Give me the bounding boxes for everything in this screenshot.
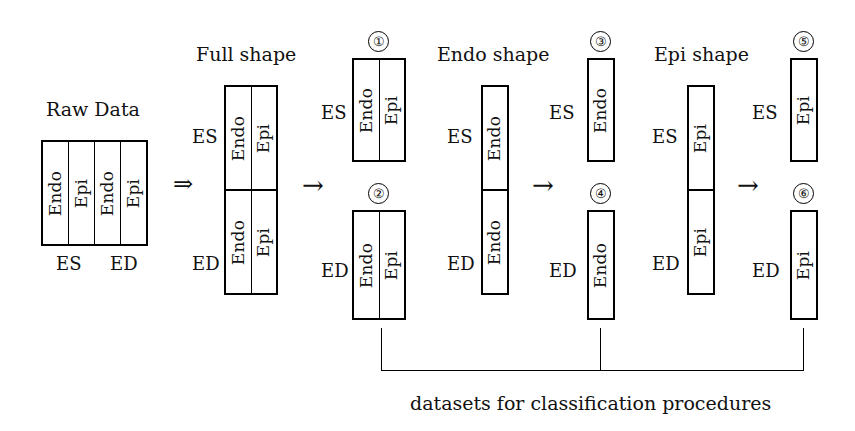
dataset-5-cell-epi: Epi: [792, 60, 816, 160]
grouping-bracket-horizontal: [381, 370, 804, 371]
epi-shape-row-ed: Epi: [689, 189, 713, 293]
epi-shape-box: Epi Epi: [687, 85, 715, 295]
cell-label: Endo: [358, 242, 375, 287]
raw-data-row: Endo Epi Endo Epi: [43, 142, 146, 244]
dataset-1-row: Endo Epi: [354, 60, 404, 160]
endo-shape-row-ed: Endo: [483, 189, 507, 293]
cell-label: Endo: [487, 219, 504, 264]
grouping-bracket-stem-right: [803, 328, 804, 370]
dataset-number-1: ①: [368, 31, 389, 52]
full-shape-cell-es-endo: Endo: [226, 87, 251, 189]
dataset-5-label: ES: [752, 104, 777, 122]
figure-canvas: Raw Data Endo Epi Endo Epi ES ED ⇒ Full …: [0, 0, 855, 431]
cell-label: Epi: [796, 95, 813, 124]
endo-shape-label-ed: ED: [447, 255, 475, 273]
raw-data-box: Endo Epi Endo Epi: [41, 140, 148, 246]
dataset-number-2: ②: [368, 183, 389, 204]
cell-label: Endo: [47, 170, 64, 215]
dataset-1-cell-epi: Epi: [379, 60, 405, 160]
dataset-3-box: Endo: [587, 58, 615, 162]
full-shape-cell-es-epi: Epi: [251, 87, 277, 189]
cell-label: Epi: [255, 123, 272, 152]
dataset-6-cell-epi: Epi: [792, 212, 816, 318]
arrow-to-epi-datasets-icon: →: [737, 172, 759, 198]
cell-label: Epi: [383, 250, 400, 279]
full-shape-row-ed: Endo Epi: [226, 189, 276, 293]
arrow-to-full-datasets-icon: →: [302, 172, 324, 198]
dataset-number-5: ⑤: [793, 31, 814, 52]
dataset-6-label: ED: [752, 262, 780, 280]
dataset-3-cell-endo: Endo: [589, 60, 613, 160]
full-shape-label-ed: ED: [192, 255, 220, 273]
cell-label: Epi: [125, 178, 142, 207]
dataset-4-row: Endo: [589, 212, 613, 318]
raw-data-cell-epi-es: Epi: [68, 142, 94, 244]
cell-label: Endo: [358, 87, 375, 132]
grouping-bracket-stem-left: [381, 328, 382, 370]
cell-label: Epi: [383, 95, 400, 124]
dataset-2-row: Endo Epi: [354, 212, 404, 318]
cell-label: Endo: [593, 242, 610, 287]
full-shape-box: Endo Epi Endo Epi: [224, 85, 278, 295]
dataset-5-box: Epi: [790, 58, 818, 162]
dataset-2-cell-epi: Epi: [379, 212, 405, 318]
cell-label: Epi: [73, 178, 90, 207]
full-shape-cell-ed-endo: Endo: [226, 191, 251, 293]
epi-shape-title: Epi shape: [654, 45, 749, 64]
raw-data-title: Raw Data: [46, 100, 140, 119]
grouping-bracket-stem-middle: [600, 328, 601, 370]
endo-shape-cell-ed-endo: Endo: [483, 191, 507, 293]
dataset-6-row: Epi: [792, 212, 816, 318]
endo-shape-title: Endo shape: [437, 45, 549, 64]
cell-label: Epi: [693, 227, 710, 256]
dataset-1-cell-endo: Endo: [354, 60, 379, 160]
raw-data-cell-epi-ed: Epi: [120, 142, 146, 244]
dataset-4-label: ED: [549, 262, 577, 280]
full-shape-label-es: ES: [192, 128, 217, 146]
raw-data-label-es: ES: [56, 255, 81, 273]
dataset-number-3: ③: [590, 31, 611, 52]
epi-shape-label-ed: ED: [652, 255, 680, 273]
full-shape-title: Full shape: [196, 45, 296, 64]
cell-label: Epi: [693, 123, 710, 152]
epi-shape-cell-ed-epi: Epi: [689, 191, 713, 293]
dataset-2-box: Endo Epi: [352, 210, 406, 320]
cell-label: Endo: [99, 170, 116, 215]
endo-shape-label-es: ES: [447, 128, 472, 146]
full-shape-cell-ed-epi: Epi: [251, 191, 277, 293]
endo-shape-box: Endo Endo: [481, 85, 509, 295]
dataset-1-label: ES: [321, 104, 346, 122]
figure-caption: datasets for classification procedures: [410, 394, 771, 413]
dataset-number-4: ④: [590, 183, 611, 204]
epi-shape-cell-es-epi: Epi: [689, 87, 713, 189]
dataset-number-6: ⑥: [793, 183, 814, 204]
arrow-to-endo-datasets-icon: →: [532, 172, 554, 198]
dataset-5-row: Epi: [792, 60, 816, 160]
dataset-2-cell-endo: Endo: [354, 212, 379, 318]
raw-data-label-ed: ED: [110, 255, 138, 273]
dataset-2-label: ED: [321, 262, 349, 280]
cell-label: Endo: [487, 115, 504, 160]
dataset-3-label: ES: [549, 104, 574, 122]
epi-shape-label-es: ES: [652, 128, 677, 146]
cell-label: Endo: [593, 87, 610, 132]
double-arrow-icon: ⇒: [173, 172, 193, 196]
dataset-3-row: Endo: [589, 60, 613, 160]
dataset-4-cell-endo: Endo: [589, 212, 613, 318]
cell-label: Epi: [796, 250, 813, 279]
raw-data-cell-endo-ed: Endo: [94, 142, 120, 244]
full-shape-row-es: Endo Epi: [226, 87, 276, 189]
endo-shape-cell-es-endo: Endo: [483, 87, 507, 189]
cell-label: Endo: [230, 115, 247, 160]
endo-shape-row-es: Endo: [483, 87, 507, 189]
epi-shape-row-es: Epi: [689, 87, 713, 189]
raw-data-cell-endo-es: Endo: [43, 142, 68, 244]
dataset-4-box: Endo: [587, 210, 615, 320]
dataset-6-box: Epi: [790, 210, 818, 320]
cell-label: Epi: [255, 227, 272, 256]
dataset-1-box: Endo Epi: [352, 58, 406, 162]
cell-label: Endo: [230, 219, 247, 264]
